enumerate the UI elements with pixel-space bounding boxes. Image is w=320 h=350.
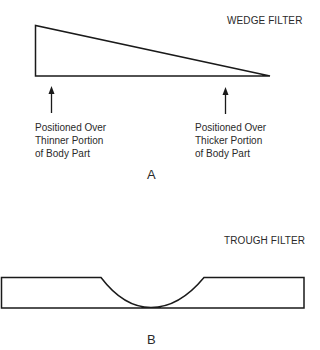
label-line: Positioned Over	[35, 121, 106, 134]
label-line: Thinner Portion	[35, 134, 106, 147]
label-line: of Body Part	[195, 147, 266, 160]
thicker-portion-label: Positioned Over Thicker Portion of Body …	[195, 121, 266, 160]
wedge-filter-shape	[36, 26, 271, 77]
label-line: of Body Part	[35, 147, 106, 160]
panel-a-letter: A	[147, 167, 156, 182]
right-arrow-icon	[223, 87, 229, 114]
left-arrow-icon	[49, 86, 55, 113]
thinner-portion-label: Positioned Over Thinner Portion of Body …	[35, 121, 106, 160]
label-line: Positioned Over	[195, 121, 266, 134]
filter-diagram	[0, 0, 320, 350]
label-line: Thicker Portion	[195, 134, 266, 147]
panel-b-letter: B	[147, 332, 156, 347]
trough-filter-shape	[2, 278, 305, 309]
wedge-filter-title: WEDGE FILTER	[227, 15, 302, 26]
trough-filter-title: TROUGH FILTER	[224, 235, 305, 246]
